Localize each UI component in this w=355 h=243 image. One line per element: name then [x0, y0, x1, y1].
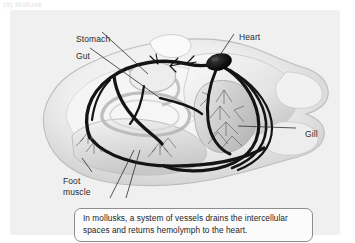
caption-text: In mollusks, a system of vessels drains … — [83, 213, 304, 236]
mollusk-circulatory-system-illustration — [10, 10, 340, 235]
label-gut: Gut — [76, 51, 90, 62]
label-stomach: Stomach — [76, 34, 110, 45]
label-foot-muscle: Foot muscle — [63, 176, 91, 197]
caption-callout-box: In mollusks, a system of vessels drains … — [74, 208, 313, 242]
figure-header: (b) Mollusk — [3, 0, 42, 10]
figure-panel: Stomach Gut Heart Gill Foot muscle In mo… — [10, 10, 340, 235]
label-gill: Gill — [305, 129, 318, 140]
label-heart: Heart — [239, 32, 260, 43]
